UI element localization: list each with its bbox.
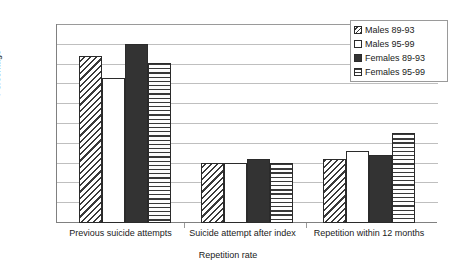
bar-chart: 50 45 40 35 30 25 20 15 10 5 0 Percentag… bbox=[0, 0, 456, 280]
bar-males-89-93 bbox=[201, 163, 224, 223]
legend-label: Females 89-93 bbox=[365, 53, 425, 63]
bar-males-95-99 bbox=[346, 151, 369, 223]
legend-label: Females 95-99 bbox=[365, 67, 425, 77]
bar-group-previous-suicide-attempts bbox=[79, 24, 171, 223]
x-tick-label-suicide-attempt-after-index: Suicide attempt after index bbox=[179, 228, 306, 239]
x-tick-label-previous-suicide-attempts: Previous suicide attempts bbox=[57, 228, 184, 239]
y-axis-title: Percentage bbox=[0, 50, 2, 96]
legend-label: Males 89-93 bbox=[365, 25, 415, 35]
legend-label: Males 95-99 bbox=[365, 39, 415, 49]
bar-females-95-99 bbox=[270, 163, 293, 223]
legend: Males 89-93 Males 95-99 Females 89-93 Fe… bbox=[350, 20, 448, 82]
bar-males-95-99 bbox=[224, 163, 247, 223]
legend-item-females-89-93: Females 89-93 bbox=[351, 51, 447, 65]
legend-item-males-89-93: Males 89-93 bbox=[351, 23, 447, 37]
legend-swatch-solid-black-icon bbox=[354, 54, 362, 62]
x-tick-label-repetition-within-12-months: Repetition within 12 months bbox=[301, 228, 437, 239]
bar-females-95-99 bbox=[392, 133, 415, 223]
bar-females-89-93 bbox=[369, 155, 392, 223]
legend-swatch-diagonal-hatch-icon bbox=[354, 26, 362, 34]
bar-males-89-93 bbox=[323, 159, 346, 223]
legend-item-females-95-99: Females 95-99 bbox=[351, 65, 447, 79]
legend-swatch-white-fill-icon bbox=[354, 40, 362, 48]
legend-swatch-horizontal-line-icon bbox=[354, 68, 362, 76]
bar-females-89-93 bbox=[125, 44, 148, 223]
bar-group-suicide-attempt-after-index bbox=[201, 24, 293, 223]
legend-item-males-95-99: Males 95-99 bbox=[351, 37, 447, 51]
bar-males-95-99 bbox=[102, 78, 125, 223]
bar-females-89-93 bbox=[247, 159, 270, 223]
x-axis-title: Repetition rate bbox=[0, 250, 456, 260]
bar-females-95-99 bbox=[148, 63, 171, 223]
bar-males-89-93 bbox=[79, 56, 102, 223]
